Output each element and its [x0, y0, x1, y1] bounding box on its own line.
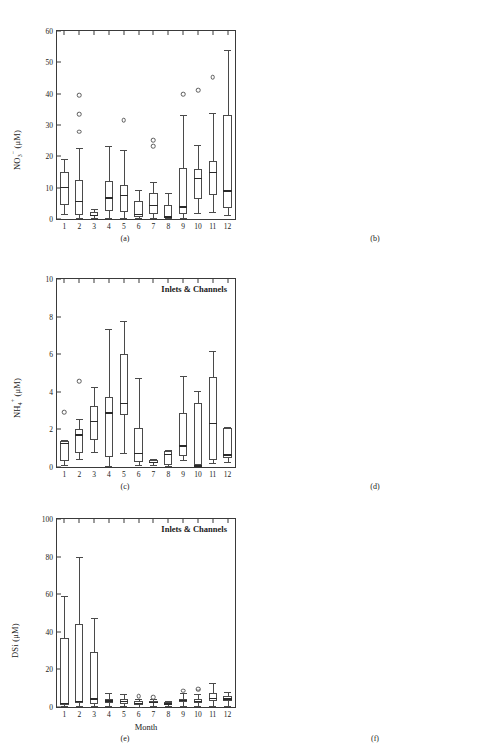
panel-a: NO3− (μM) 0102030405060123456789101112 (…	[0, 0, 250, 248]
x-tick-label: 3	[92, 707, 96, 719]
outlier-point	[196, 88, 201, 93]
y-tick-label: 60	[46, 27, 58, 36]
y-tick-label: 2	[49, 425, 57, 434]
whisker-cap-upper	[105, 693, 112, 694]
box	[209, 161, 217, 195]
outlier-point	[151, 138, 156, 143]
x-tick-label: 1	[63, 467, 67, 479]
median-line	[134, 703, 142, 704]
y-tick-label: 20	[46, 152, 58, 161]
whisker-upper	[109, 329, 110, 398]
median-line	[209, 423, 217, 424]
x-tick-label: 8	[166, 467, 170, 479]
median-line	[164, 454, 172, 455]
median-line	[164, 216, 172, 217]
panel-e: DSi (μM) Inlets & Channels 0204060801001…	[0, 496, 250, 743]
x-tick-mark	[197, 31, 198, 35]
median-line	[149, 702, 157, 703]
x-tick-mark	[227, 279, 228, 283]
x-tick-mark	[108, 31, 109, 35]
x-tick-mark	[123, 31, 124, 35]
x-tick-mark	[94, 31, 95, 35]
box	[75, 180, 83, 215]
x-tick-mark	[227, 31, 228, 35]
whisker-lower	[109, 211, 110, 218]
whisker-lower	[109, 457, 110, 466]
whisker-lower	[64, 205, 65, 214]
y-tick-mark	[57, 631, 61, 632]
x-tick-mark	[183, 31, 184, 35]
x-tick-label: 10	[194, 219, 202, 231]
y-tick-mark	[57, 519, 61, 520]
whisker-cap-lower	[135, 218, 142, 219]
panel-f-letter: (f)	[250, 734, 500, 743]
median-line	[179, 206, 187, 207]
panel-a-plot: 0102030405060123456789101112	[56, 30, 236, 220]
whisker-cap-upper	[120, 694, 127, 695]
whisker-upper	[109, 146, 110, 181]
whisker-cap-upper	[61, 159, 68, 160]
whisker-cap-lower	[91, 452, 98, 453]
whisker-cap-lower	[165, 466, 172, 467]
whisker-cap-lower	[194, 213, 201, 214]
box	[90, 406, 98, 439]
whisker-cap-lower	[224, 462, 231, 463]
panel-c-plot: Inlets & Channels 0246810123456789101112	[56, 278, 236, 468]
median-line	[223, 190, 231, 191]
outlier-point	[136, 694, 141, 699]
x-tick-mark	[138, 31, 139, 35]
whisker-cap-upper	[224, 692, 231, 693]
whisker-cap-upper	[91, 387, 98, 388]
median-line	[209, 172, 217, 173]
x-tick-label: 9	[181, 467, 185, 479]
median-line	[75, 701, 83, 702]
x-tick-mark	[212, 31, 213, 35]
x-tick-label: 6	[137, 467, 141, 479]
whisker-cap-lower	[165, 218, 172, 219]
whisker-cap-lower	[105, 706, 112, 707]
whisker-cap-lower	[150, 706, 157, 707]
whisker-cap-upper	[76, 557, 83, 558]
x-tick-label: 3	[92, 219, 96, 231]
whisker-cap-lower	[76, 218, 83, 219]
outlier-point	[77, 112, 82, 117]
x-tick-mark	[153, 279, 154, 283]
median-line	[105, 700, 113, 701]
outlier-point	[151, 144, 156, 149]
box	[75, 429, 83, 454]
median-line	[75, 201, 83, 202]
x-tick-label: 5	[122, 707, 126, 719]
whisker-upper	[124, 321, 125, 354]
panel-f: DSi (μM) Inner & Urban 02040608010012345…	[250, 496, 500, 743]
whisker-upper	[94, 618, 95, 652]
boxplot-figure: NO3− (μM) 0102030405060123456789101112 (…	[0, 0, 500, 743]
whisker-cap-lower	[180, 706, 187, 707]
whisker-lower	[94, 440, 95, 452]
panel-c-letter: (c)	[0, 482, 250, 491]
x-tick-mark	[79, 279, 80, 283]
box	[223, 428, 231, 458]
median-line	[179, 445, 187, 446]
y-tick-mark	[57, 594, 61, 595]
x-tick-mark	[123, 519, 124, 523]
median-line	[194, 465, 202, 466]
whisker-cap-upper	[194, 694, 201, 695]
whisker-cap-upper	[61, 596, 68, 597]
outlier-point	[181, 92, 186, 97]
outlier-point	[210, 75, 215, 80]
whisker-cap-lower	[135, 465, 142, 466]
x-tick-mark	[108, 519, 109, 523]
box	[179, 413, 187, 456]
y-tick-label: 10	[46, 183, 58, 192]
y-tick-label: 4	[49, 387, 57, 396]
x-tick-label: 7	[152, 707, 156, 719]
box	[90, 652, 98, 704]
y-tick-mark	[57, 316, 61, 317]
y-tick-mark	[57, 467, 61, 468]
box	[105, 397, 113, 456]
outlier-point	[77, 93, 82, 98]
whisker-cap-lower	[61, 465, 68, 466]
whisker-cap-upper	[105, 146, 112, 147]
y-tick-mark	[57, 93, 61, 94]
y-tick-label: 20	[46, 665, 58, 674]
